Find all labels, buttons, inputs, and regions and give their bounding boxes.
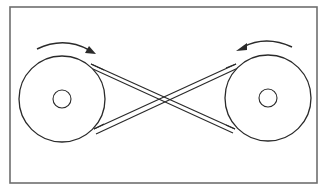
- right-pulley-hub: [259, 89, 277, 107]
- left-rotation-arrow: [37, 43, 96, 54]
- left-pulley: [19, 56, 105, 142]
- right-pulley: [225, 55, 311, 141]
- counterclockwise-arc-icon: [243, 41, 292, 47]
- right-rotation-arrow: [236, 41, 292, 51]
- clockwise-arc-icon: [37, 43, 89, 50]
- crossed-belt-drive-diagram: [0, 0, 325, 189]
- arrowhead-left-icon: [236, 43, 247, 51]
- left-pulley-hub: [53, 90, 71, 108]
- arrowhead-right-icon: [85, 46, 96, 54]
